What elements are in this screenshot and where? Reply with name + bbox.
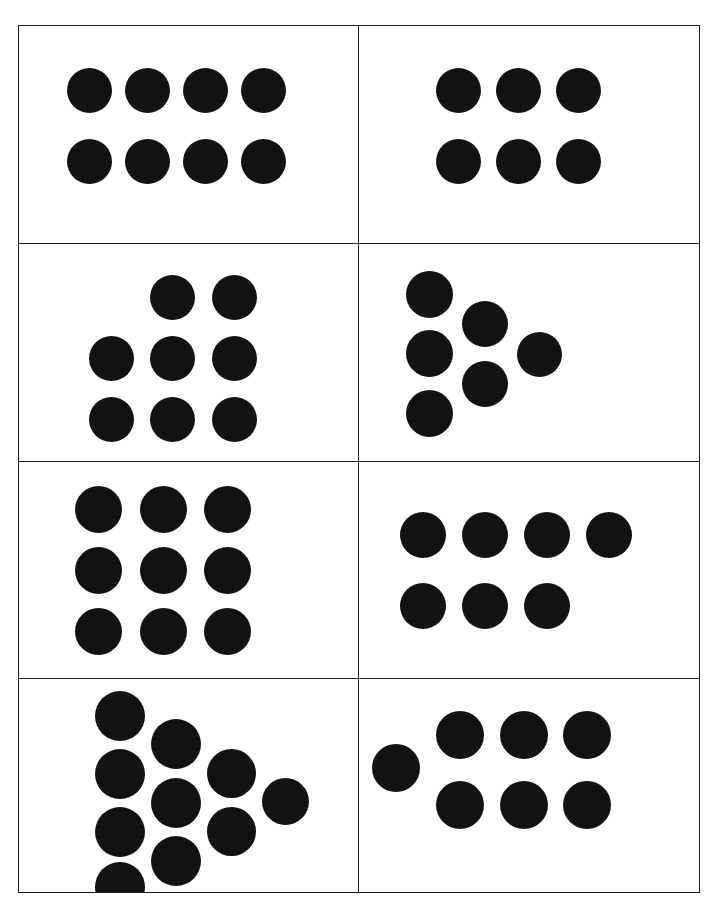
- dot: [212, 336, 257, 381]
- dot: [89, 336, 134, 381]
- dot: [517, 332, 562, 377]
- dot: [372, 744, 420, 792]
- dot: [462, 361, 508, 407]
- dot-cluster-8: [359, 679, 699, 892]
- dot: [67, 68, 112, 113]
- dot-cluster-7: [19, 679, 358, 892]
- dot: [151, 778, 201, 828]
- dot: [140, 608, 187, 655]
- dot: [207, 807, 256, 856]
- dot: [95, 862, 145, 892]
- panel-cell-7[interactable]: [19, 679, 359, 892]
- dot: [524, 583, 570, 629]
- dot: [406, 330, 453, 377]
- dot: [95, 807, 145, 857]
- dot: [207, 749, 256, 798]
- dot: [436, 68, 481, 113]
- dot: [212, 275, 257, 320]
- dot: [95, 749, 145, 799]
- dot: [89, 397, 134, 442]
- page-canvas: [0, 0, 717, 915]
- dot: [400, 512, 446, 558]
- dot: [183, 68, 228, 113]
- dot: [125, 139, 170, 184]
- dot: [436, 781, 484, 829]
- dot: [524, 512, 570, 558]
- dot-pattern-table: [18, 25, 700, 893]
- dot: [75, 486, 122, 533]
- panel-cell-5[interactable]: [19, 462, 359, 679]
- dot: [563, 781, 611, 829]
- dot: [150, 275, 195, 320]
- dot: [150, 336, 195, 381]
- dot: [75, 547, 122, 594]
- dot-cluster-3: [19, 244, 358, 461]
- dot: [436, 711, 484, 759]
- dot: [212, 397, 257, 442]
- dot-cluster-2: [359, 26, 699, 243]
- panel-cell-3[interactable]: [19, 244, 359, 462]
- dot: [95, 691, 145, 741]
- dot: [406, 390, 453, 437]
- dot: [140, 486, 187, 533]
- dot: [586, 512, 632, 558]
- dot-cluster-1: [19, 26, 358, 243]
- dot: [556, 68, 601, 113]
- dot: [500, 781, 548, 829]
- panel-cell-8[interactable]: [359, 679, 699, 892]
- dot: [462, 512, 508, 558]
- dot: [241, 139, 286, 184]
- dot: [436, 139, 481, 184]
- dot: [406, 271, 453, 318]
- dot: [204, 547, 251, 594]
- dot: [183, 139, 228, 184]
- dot: [241, 68, 286, 113]
- panel-cell-6[interactable]: [359, 462, 699, 679]
- dot: [462, 301, 508, 347]
- dot: [496, 68, 541, 113]
- panel-cell-1[interactable]: [19, 26, 359, 244]
- dot: [500, 711, 548, 759]
- dot: [556, 139, 601, 184]
- dot: [150, 397, 195, 442]
- dot: [496, 139, 541, 184]
- dot: [151, 836, 201, 886]
- dot: [67, 139, 112, 184]
- dot-cluster-4: [359, 244, 699, 461]
- dot: [400, 583, 446, 629]
- dot: [262, 778, 309, 825]
- dot: [125, 68, 170, 113]
- panel-cell-4[interactable]: [359, 244, 699, 462]
- dot-cluster-6: [359, 462, 699, 678]
- dot: [204, 486, 251, 533]
- dot: [151, 719, 201, 769]
- panel-cell-2[interactable]: [359, 26, 699, 244]
- dot-cluster-5: [19, 462, 358, 678]
- dot: [140, 547, 187, 594]
- dot: [204, 608, 251, 655]
- dot: [563, 711, 611, 759]
- dot: [462, 583, 508, 629]
- dot: [75, 608, 122, 655]
